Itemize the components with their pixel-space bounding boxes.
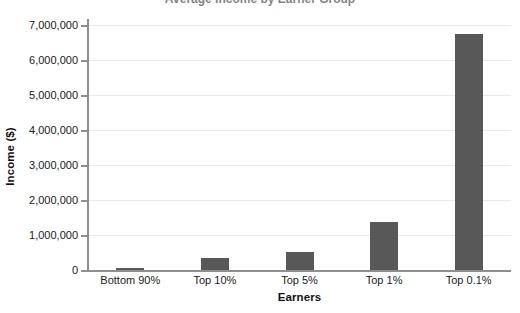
y-axis-tick-label: 4,000,000 xyxy=(0,124,78,136)
y-axis-tick-label: 7,000,000 xyxy=(0,19,78,31)
y-axis-tick xyxy=(81,95,88,97)
bar-series xyxy=(88,25,511,270)
y-axis-tick xyxy=(81,270,88,272)
y-axis-tick-label: 1,000,000 xyxy=(0,229,78,241)
x-axis-tick-label: Top 0.1% xyxy=(414,274,520,286)
bar xyxy=(455,34,483,270)
bar-chart: Average Income by Earner Group Income ($… xyxy=(0,0,520,313)
y-axis-tick xyxy=(81,200,88,202)
y-axis-tick xyxy=(81,130,88,132)
x-axis-title: Earners xyxy=(88,291,511,303)
y-axis-tick-label: 6,000,000 xyxy=(0,54,78,66)
y-axis-tick-label: 5,000,000 xyxy=(0,89,78,101)
bar xyxy=(370,222,398,270)
y-axis-tick xyxy=(81,235,88,237)
y-axis-tick-label: 3,000,000 xyxy=(0,159,78,171)
y-axis-tick xyxy=(81,165,88,167)
y-axis-tick-labels: 01,000,0002,000,0003,000,0004,000,0005,0… xyxy=(0,0,78,313)
x-axis-line xyxy=(84,270,511,272)
y-axis-tick-label: 2,000,000 xyxy=(0,194,78,206)
y-axis-tick xyxy=(81,60,88,62)
bar xyxy=(286,252,314,270)
chart-title-text: Average Income by Earner Group xyxy=(165,0,355,6)
bar xyxy=(201,258,229,270)
bar xyxy=(116,268,144,270)
chart-title-cropped: Average Income by Earner Group xyxy=(0,0,520,7)
y-axis-tick-label: 0 xyxy=(0,264,78,276)
y-axis-tick xyxy=(81,25,88,27)
